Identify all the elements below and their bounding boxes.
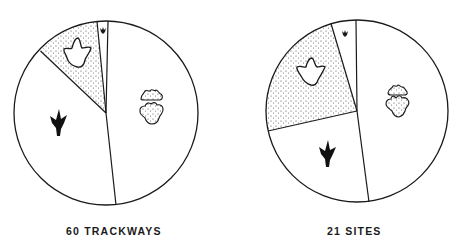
pie-sites-svg (230, 0, 459, 240)
tiny-track-icon (342, 30, 348, 37)
tridactyl-black-icon (319, 140, 336, 167)
pie-trackways-svg (0, 0, 230, 240)
tiny-track-icon (100, 27, 106, 34)
boundary-line (106, 21, 108, 113)
boundary-line (356, 20, 357, 111)
tridactyl-black-icon (50, 109, 67, 136)
boundary-line (357, 111, 369, 202)
quadruped-manus-pes-icon (386, 85, 409, 117)
boundary-line (106, 113, 116, 205)
chart-caption: 21 SITES (327, 225, 382, 237)
slice-large-tridactyl (41, 22, 107, 114)
quadruped-manus-pes-icon (140, 90, 163, 124)
pie-chart-trackways: 60 TRACKWAYS (0, 0, 230, 240)
chart-caption: 60 TRACKWAYS (66, 225, 162, 237)
pie-chart-sites: 21 SITES (230, 0, 459, 240)
